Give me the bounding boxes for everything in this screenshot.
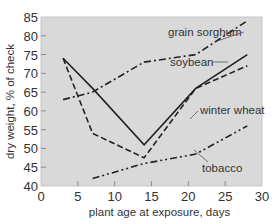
y-tick-label: 65 <box>24 85 38 100</box>
x-tick-label: 10 <box>107 189 121 204</box>
y-tick-label: 55 <box>24 123 38 138</box>
x-tick-label: 25 <box>218 189 232 204</box>
y-tick-label: 80 <box>24 29 38 44</box>
annotation-soybean: soybean <box>170 56 213 68</box>
line-chart: 40455055606570758085051015202530plant ag… <box>0 0 274 224</box>
plot-background <box>41 17 262 186</box>
y-tick-label: 75 <box>24 48 38 63</box>
x-tick-label: 30 <box>255 189 269 204</box>
x-tick-label: 5 <box>74 189 81 204</box>
annotation-winter-wheat: winter wheat <box>199 104 265 116</box>
x-tick-label: 20 <box>181 189 195 204</box>
y-tick-label: 70 <box>24 66 38 81</box>
y-tick-label: 85 <box>24 10 38 25</box>
y-tick-label: 45 <box>24 160 38 175</box>
x-tick-label: 0 <box>37 189 44 204</box>
y-tick-label: 40 <box>24 179 38 194</box>
annotation-tobacco: tobacco <box>202 162 242 174</box>
y-tick-label: 50 <box>24 141 38 156</box>
y-tick-label: 60 <box>24 104 38 119</box>
x-tick-label: 15 <box>144 189 158 204</box>
x-axis-label: plant age at exposure, days <box>89 206 231 218</box>
y-axis-label: dry weight, % of check <box>4 44 16 159</box>
